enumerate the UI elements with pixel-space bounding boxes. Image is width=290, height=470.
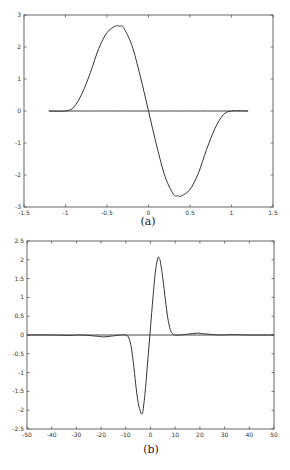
plot-b: -50-40-30-20-1001020304050-2.5-2-1.5-1-0… (12, 237, 278, 438)
y-tick-label: 0.5 (14, 312, 24, 319)
x-tick-label: 40 (245, 431, 253, 438)
x-tick-label: 30 (221, 431, 229, 438)
x-tick-label: -1.5 (18, 209, 30, 216)
y-tick-label: -2 (18, 406, 24, 413)
y-tick-label: 2 (17, 43, 21, 50)
x-tick-label: -40 (47, 431, 57, 438)
y-tick-label: -1 (15, 139, 21, 146)
x-tick-label: -10 (121, 431, 131, 438)
x-tick-label: 1.5 (268, 209, 278, 216)
caption-b: (b) (143, 443, 159, 456)
x-tick-label: 1 (230, 209, 234, 216)
y-tick-label: 0 (20, 331, 24, 338)
x-tick-label: 10 (171, 431, 179, 438)
y-tick-label: 3 (17, 11, 21, 18)
y-tick-label: 1 (17, 75, 21, 82)
y-tick-label: 0 (17, 107, 21, 114)
figure: -1.5-1-0.500.511.5-3-2-10123 (a) -50-40-… (0, 0, 290, 470)
y-tick-label: -2 (15, 171, 21, 178)
y-tick-label: 1 (20, 293, 24, 300)
y-tick-label: 2.5 (14, 237, 24, 244)
x-tick-label: 50 (270, 431, 278, 438)
y-tick-label: -2.5 (12, 425, 24, 432)
y-tick-label: -0.5 (12, 350, 24, 357)
x-tick-label: -50 (22, 431, 32, 438)
plot-a: -1.5-1-0.500.511.5-3-2-10123 (15, 11, 278, 216)
x-tick-label: -30 (71, 431, 81, 438)
caption-a: (a) (140, 215, 155, 228)
x-tick-label: 20 (196, 431, 204, 438)
x-tick-label: -0.5 (101, 209, 113, 216)
y-tick-label: -3 (15, 203, 21, 210)
x-tick-label: 0.5 (185, 209, 195, 216)
y-tick-label: -1 (18, 369, 24, 376)
x-tick-label: -20 (96, 431, 106, 438)
y-tick-label: 2 (20, 256, 24, 263)
x-tick-label: -1 (63, 209, 69, 216)
y-tick-label: 1.5 (14, 275, 24, 282)
x-tick-label: 0 (149, 431, 153, 438)
y-tick-label: -1.5 (12, 387, 24, 394)
